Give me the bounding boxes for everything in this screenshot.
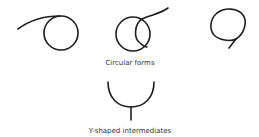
y-shaped-intermediates-label: Y-shaped intermediates <box>89 127 171 135</box>
y-shape-u-curve <box>108 82 154 107</box>
circular-forms-label: Circular forms <box>105 59 154 67</box>
circular-form-1-loop <box>44 16 78 50</box>
circular-form-1 <box>18 16 78 50</box>
y-shaped-intermediate <box>108 82 154 120</box>
circular-form-3-loop <box>211 9 245 40</box>
circular-form-2-tail <box>142 8 168 19</box>
circular-form-3 <box>211 9 245 48</box>
circular-form-2 <box>116 8 168 51</box>
diagram-canvas <box>0 0 259 137</box>
